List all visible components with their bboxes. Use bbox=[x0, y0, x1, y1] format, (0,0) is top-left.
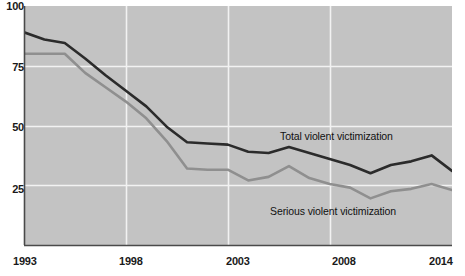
line-chart: 100 75 50 25 1993 1998 2003 2008 2014 To… bbox=[0, 0, 465, 276]
plot-area bbox=[0, 0, 465, 276]
x-tick-label-2003: 2003 bbox=[226, 256, 250, 267]
y-tick-label-50: 50 bbox=[2, 122, 24, 133]
y-axis-tick-labels: 100 75 50 25 bbox=[0, 0, 24, 250]
x-tick-label-1993: 1993 bbox=[13, 256, 37, 267]
x-tick-label-2014: 2014 bbox=[429, 256, 453, 267]
series-label-total: Total violent victimization bbox=[280, 130, 393, 142]
x-tick-label-1998: 1998 bbox=[119, 256, 143, 267]
y-tick-label-25: 25 bbox=[2, 184, 24, 195]
series-label-serious: Serious violent victimization bbox=[270, 205, 396, 217]
x-tick-label-2008: 2008 bbox=[332, 256, 356, 267]
y-tick-label-75: 75 bbox=[2, 62, 24, 73]
y-tick-label-100: 100 bbox=[2, 1, 24, 12]
